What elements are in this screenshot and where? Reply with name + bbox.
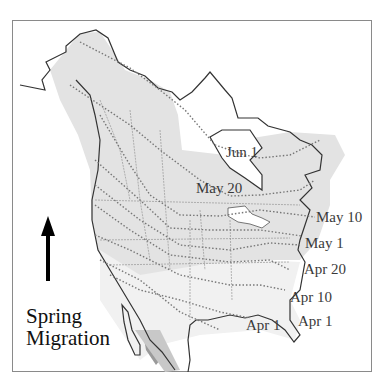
up-arrow-icon: [41, 216, 55, 281]
label-may20: May 20: [196, 181, 242, 196]
title-line2: Migration: [26, 327, 110, 349]
label-may1: May 1: [305, 236, 344, 251]
range-shading: [50, 32, 345, 280]
map-title: Spring Migration: [26, 305, 110, 349]
label-apr1-gulf: Apr 1: [246, 318, 281, 333]
label-apr20: Apr 20: [304, 262, 346, 277]
label-apr1-florida: Apr 1: [298, 314, 333, 329]
label-jun1: Jun 1: [226, 145, 258, 160]
label-apr10: Apr 10: [290, 290, 332, 305]
title-line1: Spring: [26, 305, 110, 327]
label-may10: May 10: [316, 210, 362, 225]
